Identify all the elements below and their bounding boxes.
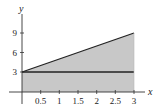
shaded-region [22, 33, 134, 92]
x-tick-label: 0.5 [35, 96, 47, 106]
x-axis-label: x [147, 86, 153, 97]
y-tick-label: 3 [13, 67, 18, 77]
x-tick-label: 1 [57, 96, 62, 106]
chart: 0.5 1 1.5 2 2.5 3 3 6 9 x y [0, 0, 159, 108]
x-tick-label: 2 [94, 96, 99, 106]
y-axis-label: y [18, 3, 24, 14]
x-tick-label: 3 [132, 96, 137, 106]
x-tick-label: 1.5 [72, 96, 84, 106]
y-tick-label: 9 [13, 28, 18, 38]
x-tick-label: 2.5 [110, 96, 122, 106]
y-tick-label: 6 [13, 48, 18, 58]
